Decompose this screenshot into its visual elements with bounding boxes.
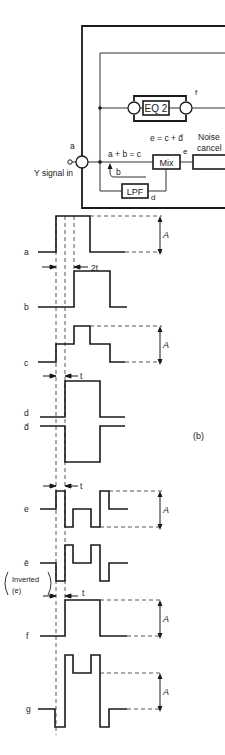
paren-left [5,572,8,595]
inverted-note-e: (e) [12,586,22,595]
row-label-a: a [24,247,29,257]
y-signal-in-label: Y signal in [34,168,73,178]
sum-label: a + b = c [108,149,142,159]
panel-label: (b) [193,431,204,441]
delay-2t-label: 2t [91,263,99,273]
row-label-e: e [24,504,29,514]
row-label-g: g [26,704,31,714]
paren-right [48,572,51,595]
row-label-f: f [26,631,29,641]
waveform-d [40,381,125,417]
amplitude-label-e: A [162,505,169,515]
delay-t-label-c: t [80,371,83,381]
input-junction-node [76,156,88,168]
inverted-note: Inverted [12,575,39,584]
lpf-label: LPF [127,187,144,197]
d-label: d [151,193,155,202]
waveform-e-bar [40,545,128,581]
noise-cancel-figure: EQ 2 f a Y signal in a + b = c b Mix e =… [0,0,225,755]
amplitude-markers [90,216,163,712]
row-label-c: c [24,358,29,368]
noise-cancel-block [193,155,225,169]
mix-equation: e = c + d̄ [150,133,183,143]
waveform-b [38,271,127,307]
amplitude-label-a: A [162,230,169,240]
f-label: f [195,88,198,97]
input-node-label: a [70,141,75,151]
arrow-head-icon [108,163,113,169]
junction-dot [98,160,102,164]
amplitude-label-g: A [162,687,169,697]
waveform-panel: a b c d d̄ e ē f g Inverted (e) [5,216,204,735]
row-label-d-bar: d̄ [24,422,29,432]
amplitude-label-c: A [162,340,169,350]
e-label: e [183,147,188,156]
row-label-e-bar: ē [24,558,29,568]
waveform-f [40,600,127,636]
delay-t-label-f: t [82,588,85,598]
waveform-e [40,491,128,527]
mix-label: Mix [160,158,174,168]
noise-cancel-label-2: cancel [197,143,222,153]
eq-output-node [180,102,192,114]
block-diagram: EQ 2 f a Y signal in a + b = c b Mix e =… [34,26,225,208]
amplitude-label-f: A [162,614,169,624]
waveform-c [38,326,125,362]
noise-cancel-label-1: Noise [198,132,220,142]
row-label-b: b [24,302,29,312]
row-label-d: d [24,408,29,418]
junction-dot [98,106,102,110]
waveform-d-bar [40,426,125,462]
feedback-label: b [116,167,121,177]
waveform-a [38,216,125,252]
waveform-g [38,655,127,727]
input-terminal [68,160,72,164]
eq2-label: EQ 2 [145,103,168,114]
lpf-to-mix-line [148,169,166,191]
eq-input-node [128,102,140,114]
delay-t-label-e: t [80,481,83,491]
